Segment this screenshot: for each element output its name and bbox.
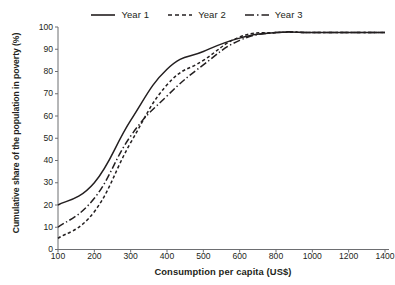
data-series-layer — [58, 32, 385, 239]
series-line-year-3 — [58, 32, 385, 227]
series-line-year-2 — [58, 32, 385, 238]
axis-lines — [58, 27, 389, 250]
